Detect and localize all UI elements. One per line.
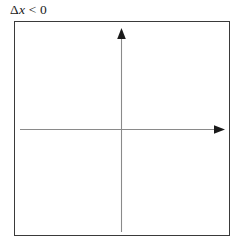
figure-panel: Δx < 0 xyxy=(0,0,244,250)
figure-caption: Δx < 0 xyxy=(10,1,47,19)
plot-frame-border xyxy=(14,21,230,236)
delta-symbol: Δ xyxy=(10,2,19,17)
relation-text: < 0 xyxy=(25,2,47,17)
